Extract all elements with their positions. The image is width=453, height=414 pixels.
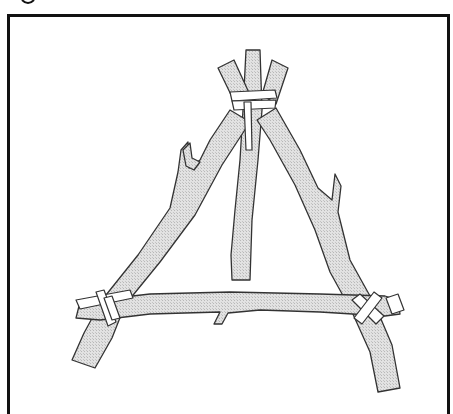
right-leg [257, 108, 400, 392]
left-leg [72, 110, 250, 368]
left-branch-stub [183, 143, 200, 170]
cropped-caption-glyph [22, 0, 34, 3]
